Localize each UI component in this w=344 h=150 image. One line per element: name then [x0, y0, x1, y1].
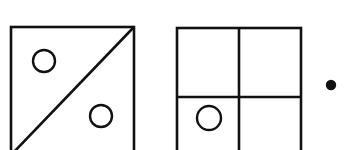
- puzzle-canvas: [0, 0, 344, 150]
- figure-2-group: [177, 28, 301, 150]
- figure-1-circle-upper-left: [33, 50, 55, 72]
- figure-1-group: [11, 27, 134, 150]
- figure-1-circle-lower-right: [90, 105, 112, 127]
- figure-illustration: [0, 0, 344, 150]
- figure-2-circle-bottom-left-quadrant: [197, 106, 221, 130]
- figure-1-diagonal-line: [12, 28, 133, 150]
- marker-group: [326, 80, 336, 90]
- solid-dot-icon: [326, 80, 336, 90]
